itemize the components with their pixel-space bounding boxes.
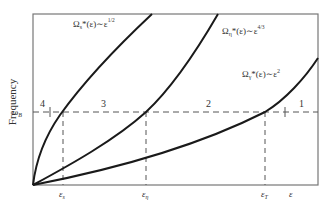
curve-omega-s [33, 14, 152, 185]
region-label-2: 2 [206, 98, 211, 109]
curve-label-omega-gamma: Ωγ*(ε)∼ε2 [242, 68, 280, 80]
region-label-3: 3 [101, 98, 106, 109]
x-tick-epsilon-t: εT [261, 189, 269, 200]
plot-frame [33, 14, 318, 185]
region-label-4: 4 [40, 98, 45, 109]
omega-b-label: ωB [12, 107, 22, 118]
curve-label-omega-s: Ωs*(ε)∼ε1/2 [73, 17, 115, 30]
curve-label-omega-eta: Ωη*(ε)∼ε4/3 [222, 24, 265, 37]
x-axis-label: ε [289, 189, 293, 199]
y-axis-label: Frequency [6, 78, 18, 125]
region-label-1: 1 [299, 98, 304, 109]
x-tick-epsilon-s: εs [59, 189, 66, 200]
frequency-diagram: Frequency ωB Ωs*(ε)∼ε1/2 Ωη*(ε)∼ε4/3 Ωγ*… [0, 0, 333, 205]
x-tick-epsilon-eta: εη [142, 189, 149, 200]
